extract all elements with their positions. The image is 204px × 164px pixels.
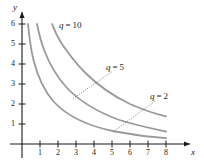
y-axis-arrow — [19, 12, 24, 18]
x-tick-label-4: 4 — [89, 149, 99, 157]
level-curves-chart: 6 5 4 3 2 1 1 2 3 4 5 6 7 8 y x q=10 q=5… — [0, 0, 204, 164]
curve-label-q-5-value: 5 — [120, 62, 125, 72]
curve-q-5 — [37, 24, 166, 132]
x-tick-label-1: 1 — [35, 149, 45, 157]
curve-label-q-5: q=5 — [106, 63, 124, 72]
curve-label-q-10-value: 10 — [73, 20, 82, 30]
y-tick-label-6: 6 — [5, 20, 15, 28]
curve-label-q-10-operator: = — [66, 20, 71, 30]
x-axis-label: x — [191, 148, 195, 157]
y-tick-label-1: 1 — [5, 120, 15, 128]
curve-label-q-10-symbol: q — [59, 20, 64, 30]
x-tick-label-5: 5 — [107, 149, 117, 157]
plot-area — [0, 0, 204, 164]
y-tick-label-3: 3 — [5, 80, 15, 88]
x-tick-label-6: 6 — [125, 149, 135, 157]
curve-label-q-2-operator: = — [157, 91, 162, 101]
x-tick-label-7: 7 — [143, 149, 153, 157]
x-axis-arrow — [184, 141, 190, 146]
curve-label-q-10: q=10 — [59, 21, 82, 30]
y-tick-label-2: 2 — [5, 100, 15, 108]
curve-label-q-5-operator: = — [113, 62, 118, 72]
curve-q-2 — [28, 24, 166, 138]
curve-label-q-5-symbol: q — [106, 62, 111, 72]
leader-line-q-5 — [73, 72, 112, 99]
curve-label-q-2-value: 2 — [164, 91, 169, 101]
x-tick-label-3: 3 — [71, 149, 81, 157]
x-tick-label-8: 8 — [161, 149, 171, 157]
y-axis-label: y — [13, 3, 17, 12]
x-tick-label-2: 2 — [53, 149, 63, 157]
y-tick-label-4: 4 — [5, 60, 15, 68]
y-tick-label-5: 5 — [5, 40, 15, 48]
curve-label-q-2-symbol: q — [150, 91, 155, 101]
curve-label-q-2: q=2 — [150, 92, 168, 101]
